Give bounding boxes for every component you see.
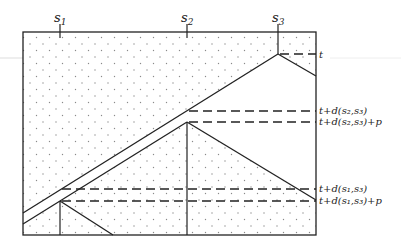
- time-label-t-d-s1-s3-p: t+d(s₁,s₃)+p: [319, 195, 382, 206]
- site-label-s1: s1: [54, 10, 66, 27]
- time-label-t-d-s2-s3: t+d(s₂,s₃): [319, 105, 367, 116]
- site-label-s3: s3: [272, 10, 285, 27]
- time-label-t-d-s1-s3: t+d(s₁,s₃): [319, 183, 367, 194]
- space-time-diagram: s1 s2 s3 t t+d(s₂,s₃) t+d(s₂,s₃)+p t+d(s…: [0, 0, 401, 248]
- time-label-t-d-s2-s3-p: t+d(s₂,s₃)+p: [319, 116, 382, 127]
- time-label-t: t: [319, 49, 324, 60]
- site-label-s2: s2: [181, 10, 194, 27]
